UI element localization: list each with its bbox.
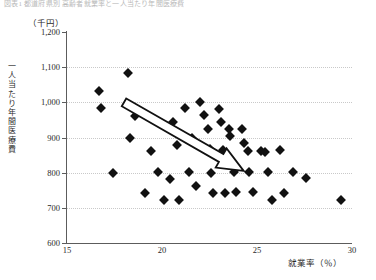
- trend-arrow-annotation: [0, 0, 376, 280]
- trend-arrow-shape: [119, 93, 250, 181]
- figure-container: 図表1 都道府県別 高齢者就業率と一人当たり年間医療費 （千円） 一人当たり年間…: [0, 0, 376, 280]
